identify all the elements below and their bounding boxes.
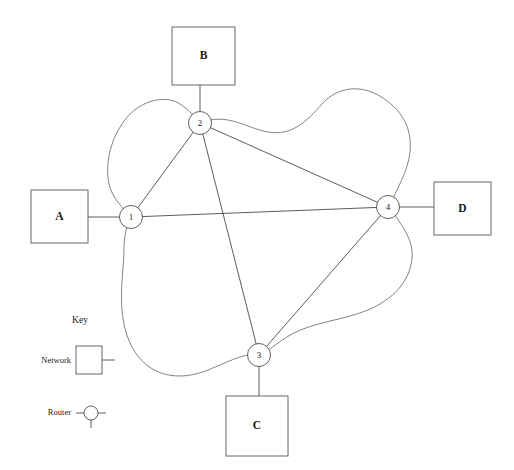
network-box-d[interactable]: D [434,182,491,235]
diagram-canvas: A B C D 1 2 3 4 [0,0,514,470]
link-1-4 [131,207,388,217]
network-box-d-label: D [458,202,466,214]
link-2-3 [200,123,259,355]
router-4-label: 4 [386,202,391,212]
key-item-network-label: Network [41,355,71,365]
router-node-4[interactable]: 4 [377,196,400,219]
network-box-c[interactable]: C [226,396,288,456]
router-3-label: 3 [257,350,262,360]
key-item-router-label: Router [48,407,71,417]
router-node-2[interactable]: 2 [189,112,212,135]
network-box-c-label: C [253,419,261,431]
key-legend: Key Network Router [41,315,115,428]
router-node-1[interactable]: 1 [120,206,143,229]
network-box-b[interactable]: B [172,27,235,85]
link-2-4 [200,123,388,207]
network-topology-diagram: A B C D 1 2 3 4 [0,0,514,470]
key-title: Key [72,315,88,325]
network-box-a-label: A [55,210,64,222]
router-circle-symbol [84,406,98,420]
link-3-4 [259,207,388,355]
router-1-label: 1 [129,212,134,222]
network-square-symbol [76,346,102,374]
cloud-boundary [108,89,413,376]
key-item-network: Network [41,346,115,374]
router-node-3[interactable]: 3 [248,344,271,367]
link-1-2 [131,123,200,217]
network-box-b-label: B [200,49,208,61]
network-box-a[interactable]: A [31,190,88,243]
router-2-label: 2 [198,118,203,128]
key-item-router: Router [48,406,106,428]
